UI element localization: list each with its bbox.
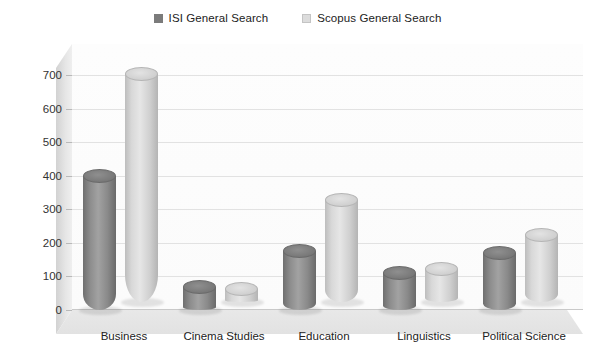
bars-layer bbox=[0, 0, 595, 360]
x-axis-category-label: Political Science bbox=[482, 330, 566, 342]
bar-top-ellipse bbox=[83, 169, 116, 183]
bar-top-ellipse bbox=[125, 67, 158, 81]
bar-cylinder bbox=[225, 289, 258, 302]
bar-cylinder bbox=[125, 74, 158, 302]
bar-cylinder bbox=[283, 251, 316, 310]
bar-top-ellipse bbox=[225, 282, 258, 296]
x-axis-category-label: Cinema Studies bbox=[183, 330, 264, 342]
bar-cylinder bbox=[383, 273, 416, 310]
bar-cylinder bbox=[425, 269, 458, 303]
bar-body bbox=[483, 253, 516, 310]
bar-top-ellipse bbox=[425, 262, 458, 276]
x-axis-category-label: Education bbox=[298, 330, 349, 342]
bar-top-ellipse bbox=[525, 228, 558, 242]
x-axis-category-label: Business bbox=[101, 330, 148, 342]
plot-area: 0100200300400500600700 BusinessCinema St… bbox=[0, 0, 595, 360]
bar-body bbox=[325, 200, 358, 302]
x-axis-category-label: Linguistics bbox=[397, 330, 451, 342]
bar-top-ellipse bbox=[283, 244, 316, 258]
bar-body bbox=[83, 176, 116, 310]
bar-body bbox=[283, 251, 316, 310]
bar-cylinder bbox=[183, 287, 216, 311]
bar-top-ellipse bbox=[383, 266, 416, 280]
bar-top-ellipse bbox=[325, 193, 358, 207]
bar-cylinder bbox=[483, 253, 516, 310]
bar-cylinder bbox=[325, 200, 358, 302]
cylinder-chart: ISI General Search Scopus General Search… bbox=[0, 0, 595, 360]
bar-cylinder bbox=[83, 176, 116, 310]
bar-top-ellipse bbox=[183, 280, 216, 294]
bar-body bbox=[125, 74, 158, 302]
bar-cylinder bbox=[525, 235, 558, 302]
bar-body bbox=[525, 235, 558, 302]
bar-top-ellipse bbox=[483, 246, 516, 260]
